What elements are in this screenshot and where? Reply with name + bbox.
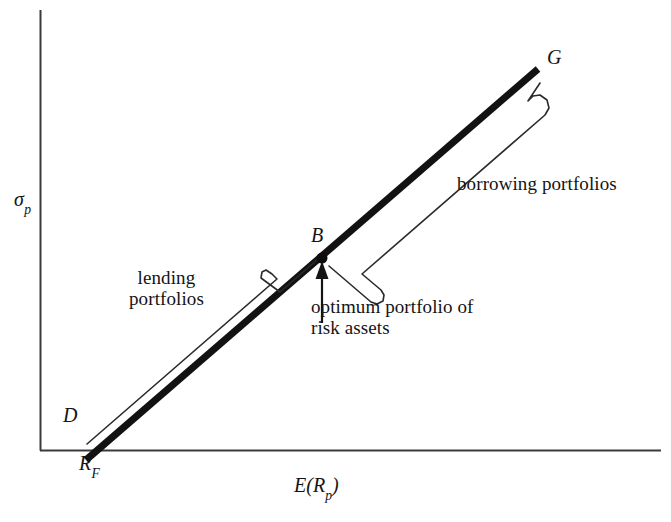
y-axis-label: σp <box>14 188 31 214</box>
point-label-rf: RF <box>79 452 100 478</box>
rf-label-subscript: F <box>91 466 99 481</box>
annotation-optimum-line1: optimum portfolio of <box>311 296 473 317</box>
annotation-lending-line1: lending <box>129 267 204 288</box>
annotation-borrowing-portfolios: borrowing portfolios <box>457 173 617 194</box>
y-axis-label-base: σ <box>14 188 24 210</box>
x-axis-label: E(Rp) <box>294 474 339 500</box>
x-axis-label-close: ) <box>332 474 339 496</box>
rf-label-base: R <box>79 452 91 474</box>
y-axis-label-subscript: p <box>24 202 31 217</box>
annotation-optimum-portfolio: optimum portfolio of risk assets <box>311 296 473 339</box>
x-axis-label-base: E(R <box>294 474 325 496</box>
annotation-lending-portfolios: lending portfolios <box>129 267 204 310</box>
point-label-d: D <box>63 404 77 426</box>
annotation-lending-line2: portfolios <box>129 288 204 309</box>
x-axis-label-subscript: p <box>325 488 332 503</box>
point-label-b: B <box>311 224 323 246</box>
point-label-g: G <box>547 46 561 68</box>
capital-market-line-figure: σp E(Rp) RF D B G lending portfolios bor… <box>0 0 671 522</box>
annotation-optimum-line2: risk assets <box>311 317 473 338</box>
figure-canvas <box>0 0 671 522</box>
